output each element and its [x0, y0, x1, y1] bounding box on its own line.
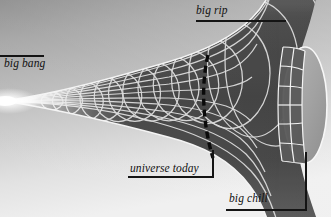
cosmic-expansion-figure: big bang big rip universe today big chil… — [0, 0, 331, 217]
label-universe-today: universe today — [130, 163, 199, 175]
label-big-rip: big rip — [196, 5, 228, 17]
cropped-text-fragment-top: , — [0, 146, 6, 158]
cropped-text-fragment-bottom: s — [0, 160, 7, 173]
callout-leader-layer — [0, 0, 331, 217]
label-big-bang: big bang — [4, 58, 45, 70]
label-big-chill: big chill — [229, 193, 268, 205]
